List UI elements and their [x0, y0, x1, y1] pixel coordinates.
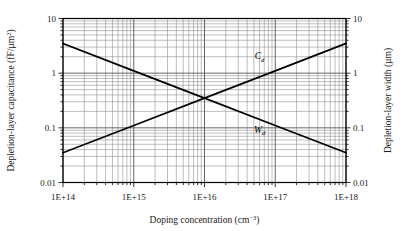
y-right-tick-label: 0.1: [353, 123, 364, 133]
y-left-tick-label: 10: [47, 14, 57, 24]
y-axis-right-title: Depletion-layer width (µm): [383, 48, 394, 153]
y-left-tick-label: 0.01: [40, 178, 56, 188]
y-left-tick-label: 0.1: [45, 123, 56, 133]
x-tick-label: 1E+15: [122, 192, 147, 202]
y-right-tick-label: 1: [353, 68, 358, 78]
x-tick-label: 1E+18: [334, 192, 359, 202]
x-tick-label: 1E+17: [263, 192, 288, 202]
x-axis-title: Doping concentration (cm−3): [150, 214, 260, 226]
y-right-tick-label: 10: [353, 14, 363, 24]
log-log-plot: 1E+141E+151E+161E+171E+18 1010.10.01 101…: [0, 0, 402, 231]
y-right-tick-label: 0.01: [353, 178, 369, 188]
x-tick-label: 1E+14: [51, 192, 76, 202]
y-axis-left-title: Depletion-layer capacitance (fF/µm2): [5, 29, 17, 171]
x-tick-label: 1E+16: [192, 192, 217, 202]
chart-figure: 1E+141E+151E+161E+171E+18 1010.10.01 101…: [0, 0, 402, 231]
y-left-tick-label: 1: [52, 68, 57, 78]
